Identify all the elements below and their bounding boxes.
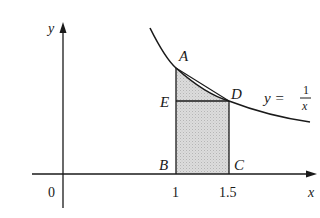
area-diagram: A D E B C y x 0 1 1.5 y = 1 x — [0, 0, 320, 218]
figure: A D E B C y x 0 1 1.5 y = 1 x — [0, 0, 320, 218]
equation-denominator: x — [301, 99, 308, 113]
label-c: C — [234, 157, 245, 173]
equation-numerator: 1 — [303, 83, 309, 97]
equation-lhs: y = — [262, 90, 285, 106]
x-axis-arrow-icon — [306, 171, 317, 178]
equation-label: y = 1 x — [262, 83, 311, 113]
y-axis-label: y — [46, 21, 55, 36]
x-axis-label: x — [307, 185, 315, 200]
label-b: B — [159, 157, 168, 173]
curve-y-equals-1-over-x — [150, 28, 310, 122]
label-e: E — [159, 94, 169, 110]
origin-label: 0 — [48, 185, 55, 200]
label-a: A — [178, 48, 189, 64]
tick-label-1-5: 1.5 — [219, 185, 237, 200]
y-axis-arrow-icon — [60, 22, 67, 33]
tick-label-1: 1 — [172, 185, 179, 200]
label-d: D — [230, 86, 242, 102]
